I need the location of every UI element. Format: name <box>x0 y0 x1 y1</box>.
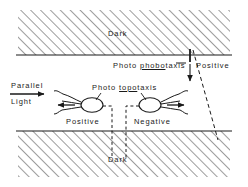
photo-topotaxis-prefix: Photo <box>92 83 119 92</box>
dark-bottom-label: Dark <box>108 156 127 164</box>
photo-phobotaxis-root: phobo <box>140 61 165 70</box>
bottom-dark-region <box>18 131 230 177</box>
photo-phobotaxis-suffix: taxis <box>165 61 185 70</box>
negative-middle-label: Negative <box>134 118 171 126</box>
parallel-label: Parallel <box>11 82 43 90</box>
positive-right-label: Positive <box>196 62 229 70</box>
negative-phototactic-organism <box>139 91 188 114</box>
photo-phobotaxis-label: Photo phobotaxis <box>113 62 185 70</box>
dark-top-label: Dark <box>108 30 127 38</box>
photo-topotaxis-root: topo <box>119 83 137 92</box>
positive-phototactic-organism <box>54 91 103 114</box>
positive-middle-label: Positive <box>66 118 99 126</box>
photo-phobotaxis-prefix: Photo <box>113 61 140 70</box>
phototaxis-diagram: Dark Dark Photo phobotaxis Positive Para… <box>0 0 248 187</box>
light-label: Light <box>11 98 32 106</box>
photo-topotaxis-suffix: taxis <box>137 83 157 92</box>
photo-topotaxis-label: Photo topotaxis <box>92 84 157 92</box>
